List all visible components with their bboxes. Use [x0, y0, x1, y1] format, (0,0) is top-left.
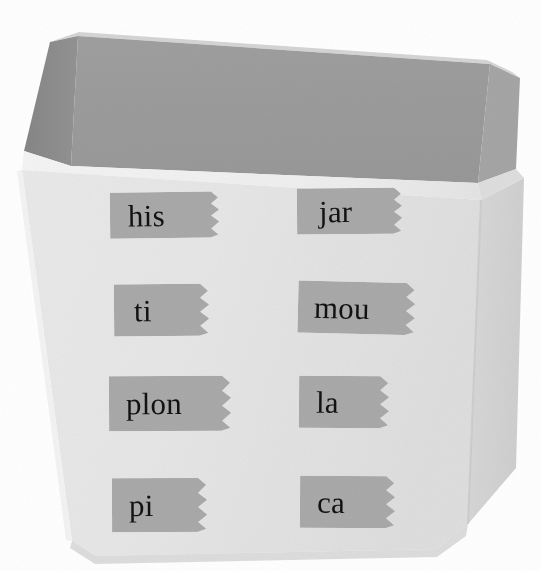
box-graphic [0, 0, 541, 571]
tape-label-text: mou [314, 291, 370, 323]
tape-label-text: la [316, 386, 339, 417]
tape-label[interactable]: mou [297, 280, 425, 335]
tape-label-text: ti [134, 295, 152, 326]
tape-label[interactable]: ca [300, 476, 404, 529]
tape-label[interactable]: his [110, 191, 230, 238]
tape-label[interactable]: la [299, 376, 397, 429]
tape-strip-icon [300, 476, 404, 529]
tape-strip-icon [112, 478, 216, 532]
tape-label[interactable]: plon [109, 376, 242, 432]
tape-label[interactable]: ti [114, 284, 218, 337]
box-front-panel [22, 170, 481, 556]
tape-label[interactable]: pi [112, 478, 216, 532]
interior-left-wall [24, 36, 78, 166]
tape-strip-icon [114, 284, 218, 337]
tape-label-text: plon [126, 388, 182, 419]
tape-label-text: pi [129, 490, 154, 521]
scene-canvas: his jar ti mou plon [0, 0, 541, 571]
tape-label-text: ca [317, 486, 345, 517]
tape-label-text: his [128, 200, 165, 231]
tape-label-text: jar [319, 196, 353, 227]
tape-label[interactable]: jar [297, 188, 412, 235]
tape-strip-icon [297, 188, 412, 235]
tape-strip-icon [299, 376, 397, 429]
